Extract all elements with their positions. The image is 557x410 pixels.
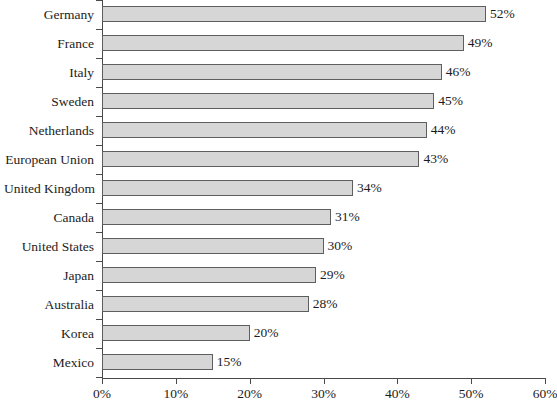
category-label: Canada [4, 203, 94, 232]
category-label: United States [4, 232, 94, 261]
bar-row: Mexico15% [102, 348, 545, 377]
category-label: Korea [4, 319, 94, 348]
bar [102, 267, 316, 283]
bar-value-label: 52% [486, 6, 515, 22]
category-label: Mexico [4, 348, 94, 377]
x-axis-tick [324, 379, 325, 384]
bar [102, 238, 324, 254]
category-label: Australia [4, 290, 94, 319]
category-label: Japan [4, 261, 94, 290]
bar [102, 296, 309, 312]
y-axis-tick [96, 261, 102, 262]
category-label: France [4, 29, 94, 58]
x-axis-tick-label: 60% [533, 386, 557, 402]
bar-value-label: 20% [250, 325, 279, 341]
bar-row: United Kingdom34% [102, 174, 545, 203]
x-axis-tick-label: 50% [459, 386, 484, 402]
y-axis-tick [96, 87, 102, 88]
bar [102, 151, 419, 167]
x-axis-tick-label: 10% [163, 386, 188, 402]
category-label: United Kingdom [4, 174, 94, 203]
x-axis-tick [176, 379, 177, 384]
category-label: Italy [4, 58, 94, 87]
y-axis-tick [96, 58, 102, 59]
x-axis-tick [545, 379, 546, 384]
bar-row: United States30% [102, 232, 545, 261]
bar-row: Australia28% [102, 290, 545, 319]
bar-value-label: 30% [324, 238, 353, 254]
bar-value-label: 34% [353, 180, 382, 196]
bar [102, 64, 442, 80]
x-axis-tick [250, 379, 251, 384]
bar-value-label: 49% [464, 35, 493, 51]
bar-value-label: 28% [309, 296, 338, 312]
y-axis-tick [96, 290, 102, 291]
y-axis-tick [96, 174, 102, 175]
category-label: Netherlands [4, 116, 94, 145]
bar [102, 180, 353, 196]
bar-value-label: 46% [442, 64, 471, 80]
x-axis-tick [397, 379, 398, 384]
x-axis-tick-label: 0% [93, 386, 111, 402]
y-axis-tick [96, 145, 102, 146]
bar-row: France49% [102, 29, 545, 58]
bar [102, 93, 434, 109]
y-axis-tick [96, 348, 102, 349]
bar-row: Canada31% [102, 203, 545, 232]
category-label: Sweden [4, 87, 94, 116]
bar-value-label: 44% [427, 122, 456, 138]
bar-row: Germany52% [102, 0, 545, 29]
bar-row: Netherlands44% [102, 116, 545, 145]
x-axis-tick [471, 379, 472, 384]
x-axis-tick-label: 20% [237, 386, 262, 402]
y-axis-tick [96, 232, 102, 233]
bar [102, 209, 331, 225]
y-axis-tick [96, 0, 102, 1]
x-axis-tick-label: 30% [311, 386, 336, 402]
bar-value-label: 15% [213, 354, 242, 370]
y-axis-tick [96, 29, 102, 30]
category-label: Germany [4, 0, 94, 29]
bar-row: European Union43% [102, 145, 545, 174]
y-axis-tick [96, 319, 102, 320]
y-axis-tick [96, 116, 102, 117]
bar-row: Sweden45% [102, 87, 545, 116]
y-axis-tick [96, 377, 102, 378]
bar-chart: Germany52%France49%Italy46%Sweden45%Neth… [0, 0, 557, 410]
bar [102, 325, 250, 341]
bar [102, 6, 486, 22]
bar-value-label: 31% [331, 209, 360, 225]
plot-area: Germany52%France49%Italy46%Sweden45%Neth… [102, 0, 545, 378]
category-label: European Union [4, 145, 94, 174]
bar-value-label: 29% [316, 267, 345, 283]
bar-row: Japan29% [102, 261, 545, 290]
y-axis-tick [96, 203, 102, 204]
bar-value-label: 45% [434, 93, 463, 109]
bar-row: Italy46% [102, 58, 545, 87]
bar-row: Korea20% [102, 319, 545, 348]
x-axis-tick [102, 379, 103, 384]
bar [102, 122, 427, 138]
bar [102, 354, 213, 370]
bar [102, 35, 464, 51]
bar-value-label: 43% [419, 151, 448, 167]
x-axis-tick-label: 40% [385, 386, 410, 402]
